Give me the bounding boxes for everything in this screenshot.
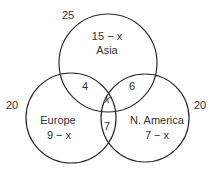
- asia-only-text: 15 − x: [92, 30, 122, 42]
- namerica-total: 20: [194, 99, 206, 111]
- asia-namerica-value: 6: [129, 80, 135, 92]
- asia-total: 25: [62, 9, 74, 21]
- asia-only-value: 15 − x: [92, 30, 122, 42]
- asia-europe-value: 4: [82, 80, 88, 92]
- europe-namerica-value: 7: [104, 120, 110, 132]
- namerica-label: N. America: [130, 114, 184, 126]
- namerica-only-value: 7 − x: [145, 129, 169, 141]
- asia-label: Asia: [96, 44, 117, 56]
- europe-only-value: 9 − x: [47, 129, 71, 141]
- europe-label: Europe: [40, 114, 75, 126]
- all-three-value: x: [104, 93, 110, 105]
- europe-total: 20: [6, 99, 18, 111]
- venn-circles: [0, 0, 212, 170]
